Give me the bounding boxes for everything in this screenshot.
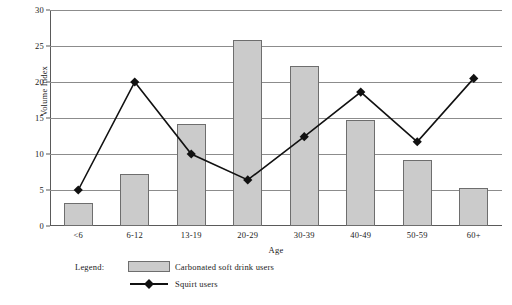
x-axis-tick-label: <6: [74, 230, 83, 240]
plot-area: 051015202530: [50, 10, 502, 226]
x-axis-tick-label: 6-12: [127, 230, 143, 240]
diamond-marker-icon: [74, 185, 83, 194]
y-axis-tick-label: 15: [35, 113, 50, 123]
legend-heading: Legend:: [75, 262, 123, 272]
y-axis-tick-label: 20: [35, 77, 50, 87]
x-axis-tick-label: 50-59: [407, 230, 428, 240]
y-axis-tick-label: 25: [35, 41, 50, 51]
diamond-marker-icon: [144, 279, 154, 289]
chart-legend: Legend: Carbonated soft drink users Squi…: [75, 258, 405, 292]
legend-swatch-bar: [123, 261, 175, 272]
line-series-squirt-users: [50, 10, 502, 226]
legend-row-carbonated: Legend: Carbonated soft drink users: [75, 258, 405, 275]
x-axis-title: Age: [50, 245, 502, 255]
x-axis-tick-label: 13-19: [181, 230, 202, 240]
x-axis-tick-label: 40-49: [350, 230, 371, 240]
y-axis-tick-label: 30: [35, 5, 50, 15]
squirt-users-line-path: [50, 10, 502, 226]
x-axis-tick-label: 30-39: [294, 230, 315, 240]
legend-swatch-line-diamond: [123, 278, 175, 289]
x-axis-tick-label: 60+: [467, 230, 481, 240]
y-axis-tick-label: 5: [40, 185, 50, 195]
x-axis-tick-labels: <66-1213-1920-2930-3940-4950-5960+: [50, 230, 502, 246]
legend-label-carbonated: Carbonated soft drink users: [175, 262, 274, 272]
y-axis-title: Volume Index: [39, 41, 49, 141]
x-axis-tick-label: 20-29: [237, 230, 258, 240]
chart-container: Volume Index 051015202530 <66-1213-1920-…: [0, 0, 512, 305]
legend-label-squirt: Squirt users: [175, 279, 218, 289]
y-axis-tick-label: 0: [40, 221, 50, 231]
y-axis-tick-label: 10: [35, 149, 50, 159]
legend-row-squirt: Squirt users: [75, 275, 405, 292]
